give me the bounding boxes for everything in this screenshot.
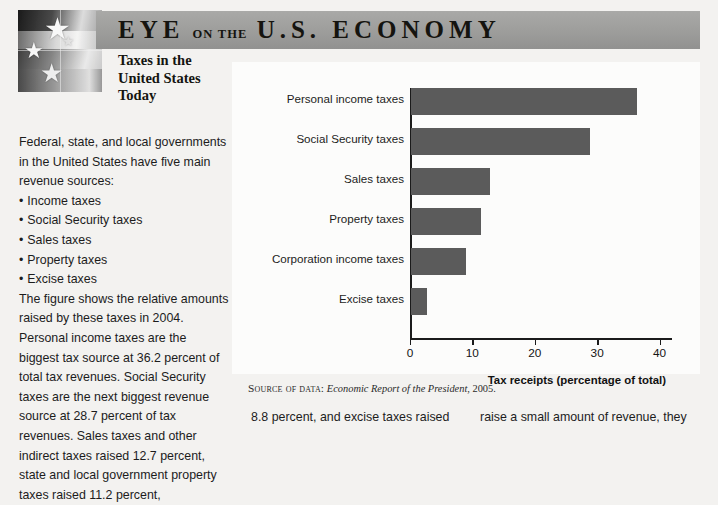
list-item: Income taxes bbox=[19, 192, 229, 212]
category-label: Sales taxes bbox=[344, 172, 404, 185]
source-year: , 2005. bbox=[467, 383, 496, 394]
list-item: Sales taxes bbox=[19, 231, 229, 251]
category-label: Property taxes bbox=[329, 212, 404, 225]
list-item: Excise taxes bbox=[19, 270, 229, 290]
x-tick-label: 20 bbox=[528, 346, 541, 360]
category-label: Excise taxes bbox=[339, 292, 404, 305]
bottom-left-spacer bbox=[19, 408, 229, 428]
category-label-group: Personal income taxes Social Security ta… bbox=[232, 88, 404, 340]
x-axis-line bbox=[410, 338, 672, 340]
article-cont-right: raise a small amount of revenue, they bbox=[480, 408, 690, 428]
feature-subtitle: Taxes in the United States Today bbox=[118, 52, 238, 105]
source-note: Source of data: Economic Report of the P… bbox=[248, 382, 496, 394]
banner-economy-text: U.S. ECONOMY bbox=[257, 16, 501, 44]
source-prefix: Source of data: bbox=[248, 382, 324, 394]
star-icon: ★ bbox=[62, 34, 75, 48]
category-label: Personal income taxes bbox=[287, 92, 404, 105]
x-tick bbox=[472, 340, 473, 345]
category-label: Social Security taxes bbox=[296, 132, 404, 145]
category-label: Corporation income taxes bbox=[272, 252, 404, 265]
bar-sales-taxes bbox=[411, 168, 490, 195]
x-tick bbox=[660, 340, 661, 345]
source-title: Economic Report of the President bbox=[327, 383, 467, 394]
article-bottom-row: 8.8 percent, and excise taxes raised rai… bbox=[19, 408, 709, 428]
figure-panel: Personal income taxes Social Security ta… bbox=[232, 62, 700, 374]
article-body: The figure shows the relative amounts ra… bbox=[19, 290, 229, 505]
revenue-source-list: Income taxes Social Security taxes Sales… bbox=[19, 192, 229, 290]
bar-excise-taxes bbox=[411, 288, 427, 315]
list-item: Property taxes bbox=[19, 251, 229, 271]
x-tick bbox=[535, 340, 536, 345]
article-left-column: Federal, state, and local governments in… bbox=[19, 133, 229, 505]
feature-banner: EYE ON THE U.S. ECONOMY bbox=[96, 11, 700, 49]
bar-social-security-taxes bbox=[411, 128, 590, 155]
bar-corporation-income-taxes bbox=[411, 248, 466, 275]
bar-property-taxes bbox=[411, 208, 481, 235]
x-tick-label: 40 bbox=[653, 346, 666, 360]
article-intro: Federal, state, and local governments in… bbox=[19, 133, 229, 192]
bar-chart-plot: 010203040 Tax receipts (percentage of to… bbox=[410, 88, 672, 340]
x-tick-label: 10 bbox=[466, 346, 479, 360]
banner-onthe-text: ON THE bbox=[192, 27, 247, 42]
x-tick bbox=[597, 340, 598, 345]
bar-personal-income-taxes bbox=[411, 88, 637, 115]
x-tick-label: 30 bbox=[591, 346, 604, 360]
x-tick bbox=[410, 340, 411, 345]
banner-eye-text: EYE bbox=[118, 16, 184, 44]
x-tick-label: 0 bbox=[407, 346, 414, 360]
us-flag-image: ★ ★ ★ ★ bbox=[18, 10, 102, 92]
list-item: Social Security taxes bbox=[19, 211, 229, 231]
article-cont-middle: 8.8 percent, and excise taxes raised bbox=[251, 408, 466, 428]
